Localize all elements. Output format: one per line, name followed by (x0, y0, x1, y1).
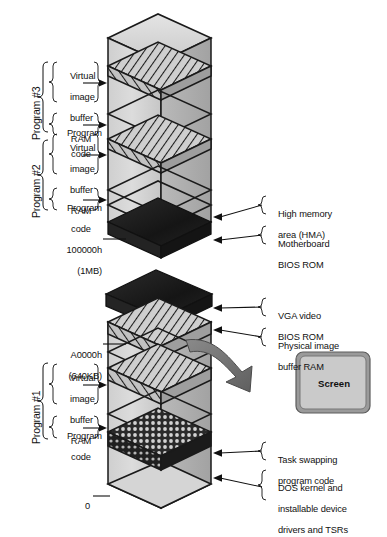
address-marker-1mb: 100000h (1MB) (48, 234, 102, 287)
group-label-program-2: Program #2 (30, 165, 42, 218)
address-line-2: (1MB) (77, 266, 102, 276)
label-line: installable device (278, 504, 347, 514)
label-line: buffer RAM (278, 362, 324, 372)
label-program-code-p1: Program code (57, 420, 95, 473)
diagram-canvas: Program #3 Virtual image buffer RAM Prog… (0, 0, 387, 537)
label-line: High memory (278, 209, 332, 219)
label-line: Motherboard (278, 239, 330, 249)
address-marker-640kb: A0000h (640KB) (44, 339, 102, 392)
label-line: image (70, 92, 95, 102)
label-physical-image-buffer-ram: Physical image buffer RAM (268, 330, 384, 383)
screen-label: Screen (312, 378, 356, 389)
address-marker-zero: 0 (68, 490, 90, 522)
group-label-program-3: Program #3 (30, 87, 42, 140)
right-leader-arrows (220, 205, 262, 487)
label-line: Program (67, 431, 102, 441)
label-motherboard-bios-rom: Motherboard BIOS ROM (268, 228, 380, 281)
label-line: code (71, 452, 91, 462)
label-line: Task swapping (278, 455, 338, 465)
address-line-1: A0000h (71, 350, 102, 360)
group-label-program-1: Program #1 (30, 391, 42, 444)
label-line: code (71, 224, 91, 234)
address-line-1: 100000h (67, 245, 103, 255)
lower-memory-tower (108, 298, 211, 508)
label-line: image (70, 394, 95, 404)
label-dos-kernel-drivers: DOS kernel and installable device driver… (268, 472, 386, 537)
address-line-1: 0 (85, 501, 90, 511)
label-line: drivers and TSRs (278, 525, 348, 535)
right-label-braces (258, 196, 266, 500)
label-line: Virtual (70, 143, 95, 153)
label-line: Virtual (70, 71, 95, 81)
label-line: VGA video (278, 311, 321, 321)
label-line: Program (67, 203, 102, 213)
label-line: Physical image (278, 341, 339, 351)
label-line: DOS kernel and (278, 483, 343, 493)
label-line: image (70, 164, 95, 174)
upper-memory-tower (108, 14, 211, 258)
address-line-2: (640KB) (69, 371, 102, 381)
label-line: BIOS ROM (278, 260, 324, 270)
